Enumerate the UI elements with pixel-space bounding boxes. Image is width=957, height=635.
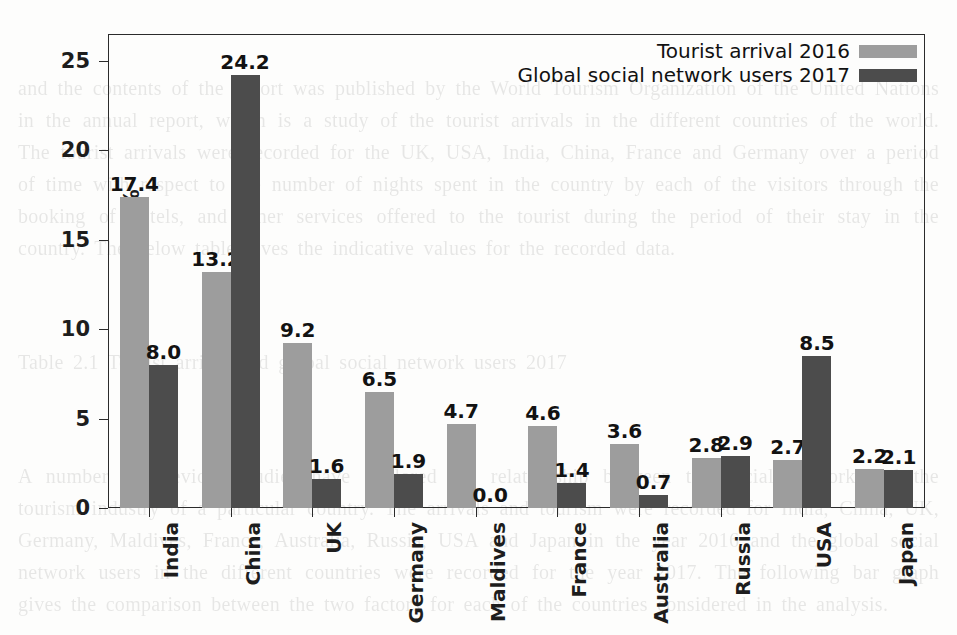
bar-value-label: 8.5 bbox=[799, 331, 834, 355]
bar[interactable] bbox=[149, 365, 178, 508]
bar[interactable] bbox=[202, 272, 231, 508]
bar-value-label: 1.4 bbox=[554, 458, 589, 482]
x-tick-label: UK bbox=[322, 522, 346, 554]
x-tick-mark bbox=[394, 508, 395, 517]
x-tick-label: USA bbox=[812, 522, 836, 568]
bar[interactable] bbox=[365, 392, 394, 508]
y-tick-mark bbox=[99, 329, 108, 330]
legend-color-swatch bbox=[859, 69, 917, 82]
y-tick-label: 10 bbox=[30, 317, 90, 341]
legend-label: Global social network users 2017 bbox=[518, 63, 850, 87]
bar[interactable] bbox=[231, 75, 260, 508]
y-tick-mark bbox=[99, 419, 108, 420]
bar[interactable] bbox=[394, 474, 423, 508]
y-tick-label: 25 bbox=[30, 49, 90, 73]
x-tick-label: China bbox=[241, 522, 265, 586]
x-tick-mark bbox=[312, 508, 313, 517]
x-tick-label: Germany bbox=[404, 522, 428, 623]
x-tick-label: France bbox=[567, 522, 591, 597]
y-tick-mark bbox=[99, 150, 108, 151]
bar[interactable] bbox=[639, 495, 668, 508]
bar-value-label: 8.0 bbox=[146, 340, 181, 364]
bar[interactable] bbox=[884, 470, 913, 508]
scanned-page: and the contents of the report was publi… bbox=[0, 0, 957, 635]
bar[interactable] bbox=[120, 197, 149, 508]
x-tick-mark bbox=[721, 508, 722, 517]
bar-value-label: 4.6 bbox=[525, 401, 560, 425]
bar-value-label: 2.9 bbox=[718, 431, 753, 455]
y-tick-mark bbox=[99, 508, 108, 509]
bar[interactable] bbox=[312, 479, 341, 508]
bar[interactable] bbox=[802, 356, 831, 508]
x-tick-label: India bbox=[159, 522, 183, 578]
bar-value-label: 9.2 bbox=[280, 318, 315, 342]
bar-value-label: 1.6 bbox=[309, 454, 344, 478]
y-tick-mark bbox=[99, 240, 108, 241]
bar-value-label: 0.0 bbox=[472, 483, 507, 507]
bar-value-label: 24.2 bbox=[220, 50, 269, 74]
bar[interactable] bbox=[692, 458, 721, 508]
bar[interactable] bbox=[721, 456, 750, 508]
y-tick-mark bbox=[99, 61, 108, 62]
x-tick-label: Japan bbox=[894, 522, 918, 585]
x-tick-label: Russia bbox=[731, 522, 755, 596]
bar-value-label: 3.6 bbox=[607, 419, 642, 443]
bar-chart-figure: Percentage % 0510152025 IndiaChinaUKGerm… bbox=[0, 0, 957, 635]
x-tick-mark bbox=[639, 508, 640, 517]
plot-area: Percentage % 0510152025 IndiaChinaUKGerm… bbox=[108, 34, 925, 508]
y-tick-label: 5 bbox=[30, 407, 90, 431]
x-tick-mark bbox=[149, 508, 150, 517]
legend-color-swatch bbox=[859, 45, 917, 58]
bar[interactable] bbox=[528, 426, 557, 508]
bar[interactable] bbox=[773, 460, 802, 508]
bar[interactable] bbox=[557, 483, 586, 508]
x-tick-mark bbox=[231, 508, 232, 517]
bar[interactable] bbox=[610, 444, 639, 508]
bar-value-label: 0.7 bbox=[636, 470, 671, 494]
x-tick-mark bbox=[557, 508, 558, 517]
bar[interactable] bbox=[855, 469, 884, 508]
x-tick-mark bbox=[802, 508, 803, 517]
bar-value-label: 17.4 bbox=[110, 172, 159, 196]
chart-legend[interactable]: Tourist arrival 2016Global social networ… bbox=[508, 34, 925, 93]
bar-value-label: 4.7 bbox=[443, 399, 478, 423]
bar-value-label: 1.9 bbox=[391, 449, 426, 473]
bar[interactable] bbox=[447, 424, 476, 508]
y-tick-label: 20 bbox=[30, 138, 90, 162]
x-tick-mark bbox=[884, 508, 885, 517]
bar-value-label: 6.5 bbox=[362, 367, 397, 391]
y-tick-label: 0 bbox=[30, 496, 90, 520]
x-tick-label: Australia bbox=[649, 522, 673, 624]
bar[interactable] bbox=[283, 343, 312, 508]
x-tick-mark bbox=[476, 508, 477, 517]
legend-item[interactable]: Tourist arrival 2016 bbox=[518, 39, 917, 63]
legend-item[interactable]: Global social network users 2017 bbox=[518, 63, 917, 87]
bar-value-label: 2.1 bbox=[881, 445, 916, 469]
x-tick-label: Maldives bbox=[486, 522, 510, 622]
legend-label: Tourist arrival 2016 bbox=[657, 39, 850, 63]
y-tick-label: 15 bbox=[30, 228, 90, 252]
bar-value-label: 2.7 bbox=[770, 435, 805, 459]
